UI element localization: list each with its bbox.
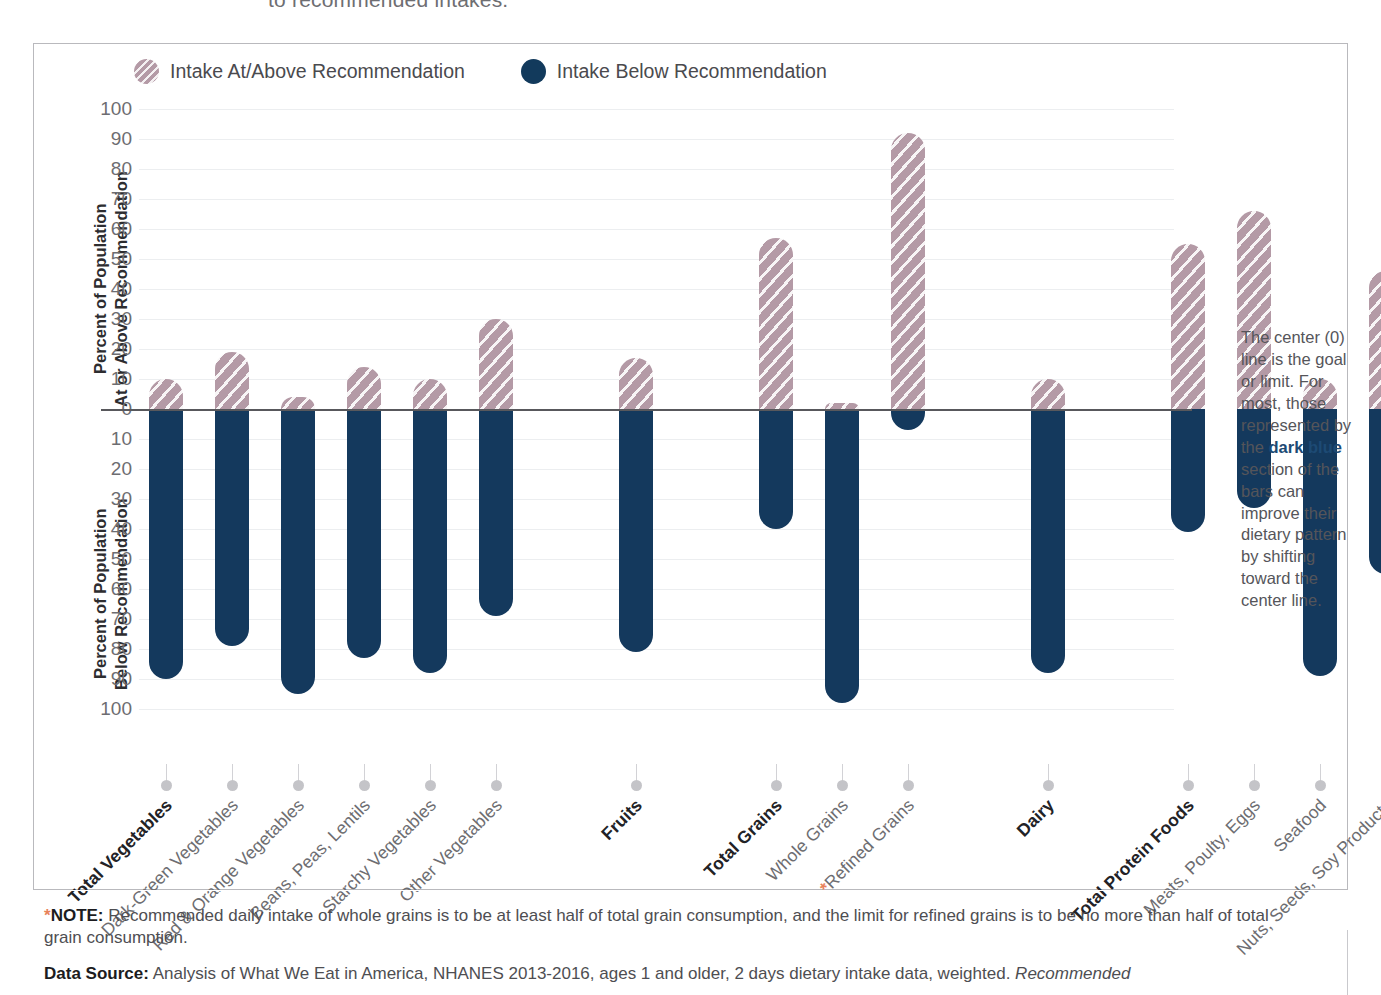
x-axis-label: Starchy Vegetables <box>318 795 441 918</box>
right-rule <box>1347 930 1348 995</box>
x-tick-dot <box>631 780 642 791</box>
y-tick-label: 40 <box>72 518 132 540</box>
legend-label-above: Intake At/Above Recommendation <box>170 60 465 83</box>
x-tick-dot <box>903 780 914 791</box>
x-axis-label: Dairy <box>1013 795 1059 841</box>
note-label: NOTE: <box>51 906 104 925</box>
y-tick-label: 100 <box>72 698 132 720</box>
bar-segment-above <box>215 352 249 409</box>
label-asterisk-icon: * <box>816 879 835 898</box>
x-tick-dot <box>227 780 238 791</box>
footnote-note: *NOTE: Recommended daily intake of whole… <box>44 905 1299 950</box>
bar-segment-below <box>149 409 183 679</box>
y-tick-label: 20 <box>72 458 132 480</box>
x-tick-dot <box>1315 780 1326 791</box>
source-text: Analysis of What We Eat in America, NHAN… <box>149 964 1015 983</box>
above-circle-icon <box>134 59 159 84</box>
chart-card: Intake At/Above Recommendation Intake Be… <box>33 43 1348 890</box>
bar-segment-below <box>281 409 315 694</box>
side-annotation-before: The center (0) line is the goal or limit… <box>1241 328 1351 456</box>
note-text: Recommended daily intake of whole grains… <box>44 906 1269 947</box>
source-italic: Recommended <box>1015 964 1130 983</box>
bar-segment-above <box>619 358 653 409</box>
bar-segment-below <box>1031 409 1065 673</box>
y-tick-label: 50 <box>72 248 132 270</box>
bar-slot[interactable] <box>149 109 183 764</box>
x-tick-dot <box>1183 780 1194 791</box>
x-axis-label: Fruits <box>597 795 647 845</box>
bar-segment-below <box>891 409 925 430</box>
plot-area: 1009080706050403020100102030405060708090… <box>139 109 1174 764</box>
bar-segment-below <box>479 409 513 616</box>
y-tick-label: 70 <box>72 188 132 210</box>
y-tick-label: 90 <box>72 668 132 690</box>
y-tick-label: 100 <box>72 98 132 120</box>
bar-slot[interactable] <box>281 109 315 764</box>
bar-slot[interactable] <box>1369 109 1381 764</box>
bar-segment-above <box>891 133 925 409</box>
y-tick-label: 40 <box>72 278 132 300</box>
bar-slot[interactable] <box>619 109 653 764</box>
x-tick-dot <box>771 780 782 791</box>
chart-page: to recommended intakes. Intake At/Above … <box>0 0 1381 995</box>
x-tick-dot <box>491 780 502 791</box>
y-tick-label: 20 <box>72 338 132 360</box>
bar-segment-above <box>479 319 513 409</box>
bar-segment-below <box>759 409 793 529</box>
y-tick-label: 90 <box>72 128 132 150</box>
bar-segment-below <box>619 409 653 652</box>
x-axis-label: Seafood <box>1269 795 1330 856</box>
y-tick-label: 70 <box>72 608 132 630</box>
bar-slot[interactable] <box>215 109 249 764</box>
x-tick-dot <box>1043 780 1054 791</box>
side-annotation-after: section of the bars can improve their di… <box>1241 460 1346 610</box>
chart-legend: Intake At/Above Recommendation Intake Be… <box>134 59 827 84</box>
y-tick-label: 60 <box>72 578 132 600</box>
bar-segment-below <box>1369 409 1381 574</box>
bar-slot[interactable] <box>1171 109 1205 764</box>
x-tick-dot <box>161 780 172 791</box>
x-tick-dot <box>293 780 304 791</box>
bar-segment-above <box>413 379 447 409</box>
bar-slot[interactable] <box>759 109 793 764</box>
y-tick-label: 10 <box>72 368 132 390</box>
bar-slot[interactable] <box>891 109 925 764</box>
bar-segment-above <box>281 397 315 409</box>
below-circle-icon <box>521 59 546 84</box>
bar-segment-below <box>215 409 249 646</box>
bar-segment-below <box>347 409 381 658</box>
x-tick-dot <box>359 780 370 791</box>
x-tick-dot <box>425 780 436 791</box>
side-annotation: The center (0) line is the goal or limit… <box>1241 327 1353 612</box>
x-axis-label: Meats, Poulty, Eggs <box>1140 795 1265 920</box>
bar-slot[interactable] <box>825 109 859 764</box>
bar-segment-above <box>1369 271 1381 409</box>
note-asterisk: * <box>44 906 51 925</box>
bar-segment-above <box>149 379 183 409</box>
legend-label-below: Intake Below Recommendation <box>557 60 827 83</box>
bar-segment-below <box>1171 409 1205 532</box>
x-tick-dot <box>1249 780 1260 791</box>
y-tick-label: 30 <box>72 308 132 330</box>
y-tick-label: 60 <box>72 218 132 240</box>
bar-segment-above <box>1031 379 1065 409</box>
bar-series <box>139 109 1174 764</box>
zero-baseline <box>101 409 1192 411</box>
bar-slot[interactable] <box>347 109 381 764</box>
bar-segment-above <box>1171 244 1205 409</box>
y-tick-label: 30 <box>72 488 132 510</box>
bar-slot[interactable] <box>479 109 513 764</box>
bar-segment-above <box>347 367 381 409</box>
side-annotation-emphasis: dark blue <box>1269 438 1342 456</box>
bar-segment-above <box>759 238 793 409</box>
y-tick-label: 80 <box>72 638 132 660</box>
bar-segment-below <box>825 409 859 703</box>
x-tick-dot <box>837 780 848 791</box>
bar-slot[interactable] <box>1031 109 1065 764</box>
title-fragment: to recommended intakes. <box>268 0 508 12</box>
footnote-data-source: Data Source: Analysis of What We Eat in … <box>44 963 1299 985</box>
y-tick-label: 50 <box>72 548 132 570</box>
source-label: Data Source: <box>44 964 149 983</box>
bar-slot[interactable] <box>413 109 447 764</box>
y-tick-label: 80 <box>72 158 132 180</box>
